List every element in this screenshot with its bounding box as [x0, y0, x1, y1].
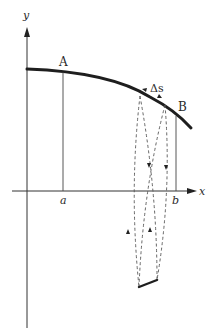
delta-s-label: Δs: [150, 82, 164, 95]
point-a-label: A: [58, 55, 68, 69]
inner-loop-right: [139, 105, 165, 287]
interval-lower-label: a: [60, 194, 67, 207]
y-axis: y: [22, 9, 30, 328]
line-integral-diagram: y x A B a b Δs: [0, 0, 217, 329]
point-b-label: B: [178, 100, 187, 114]
interval-upper-label: b: [172, 194, 179, 207]
loop-arrow-up-1-icon: [126, 229, 130, 234]
x-axis-arrow-icon: [187, 188, 197, 194]
x-axis-label: x: [199, 185, 206, 198]
loop-arrow-up-2-icon: [148, 227, 152, 232]
y-axis-arrow-icon: [24, 27, 30, 37]
projected-arc-segment: [139, 280, 157, 287]
outer-loop-right: [157, 105, 167, 280]
curve-c: [27, 69, 191, 128]
y-axis-label: y: [22, 9, 30, 22]
